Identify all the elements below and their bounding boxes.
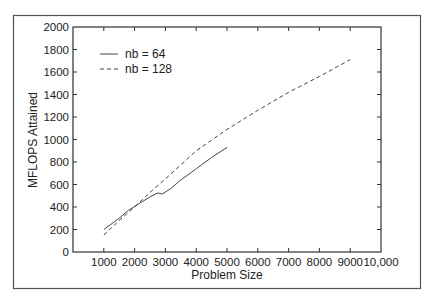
legend-label: nb = 64 xyxy=(125,47,166,61)
legend: nb = 64nb = 128 xyxy=(100,47,172,76)
x-tick-label: 7000 xyxy=(276,256,302,268)
x-tick-label: 6000 xyxy=(245,256,271,268)
y-axis: 0200400600800100012001400160018002000 xyxy=(43,21,381,258)
x-tick-label: 9000 xyxy=(337,256,363,268)
x-tick-label: 5000 xyxy=(214,256,240,268)
series-line-nb-128 xyxy=(104,60,350,236)
y-tick-label: 2000 xyxy=(43,21,69,33)
y-tick-label: 1200 xyxy=(43,111,69,123)
y-tick-label: 1800 xyxy=(43,44,69,56)
y-tick-label: 200 xyxy=(50,224,69,236)
line-chart: 0200400600800100012001400160018002000 10… xyxy=(0,0,429,300)
y-tick-label: 1400 xyxy=(43,89,69,101)
y-tick-label: 1600 xyxy=(43,66,69,78)
y-tick-label: 1000 xyxy=(43,134,69,146)
x-tick-label: 1000 xyxy=(91,256,117,268)
y-tick-label: 600 xyxy=(50,179,69,191)
legend-label: nb = 128 xyxy=(125,62,172,76)
y-tick-label: 800 xyxy=(50,156,69,168)
y-tick-label: 400 xyxy=(50,201,69,213)
x-tick-label: 2000 xyxy=(122,256,148,268)
x-tick-label: 8000 xyxy=(307,256,333,268)
y-tick-label: 0 xyxy=(63,246,69,258)
x-axis-title: Problem Size xyxy=(191,268,263,282)
chart-frame xyxy=(14,16,421,289)
x-tick-label: 4000 xyxy=(183,256,209,268)
x-tick-label: 3000 xyxy=(153,256,179,268)
series-group xyxy=(104,60,350,236)
series-line-nb-64 xyxy=(104,147,227,229)
x-tick-label: 10,000 xyxy=(363,256,398,268)
y-axis-title: MFLOPS Attained xyxy=(26,92,40,188)
